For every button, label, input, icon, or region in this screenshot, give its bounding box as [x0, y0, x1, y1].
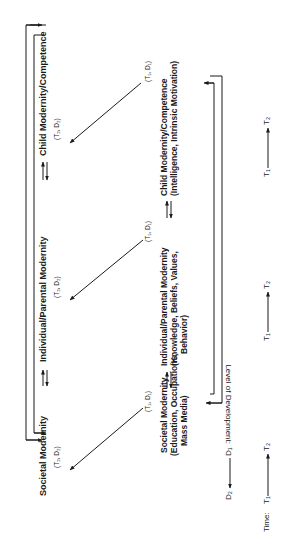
time-2-from: T₁ [262, 333, 271, 341]
time-3-from: T₁ [262, 169, 271, 177]
arrow-societal-t1-to-t2 [70, 408, 143, 470]
bidir-t2-societal-individual [43, 370, 47, 386]
bidir-t1-individual-child [167, 201, 171, 218]
arrow-individual-t1-to-t2 [70, 240, 143, 300]
bidir-t2-individual-child [43, 162, 47, 180]
t2-child-modernity-title: Child Modernity/Competence [38, 31, 48, 156]
t1-societal-modernity-desc-2: Mass Media) [180, 395, 190, 446]
level-to-label: D₂ [224, 491, 233, 500]
modernity-diagram: Societal Modernity (T₂, D₂) Individual/P… [0, 0, 300, 548]
level-from-label: D₁ [224, 448, 233, 456]
t1-individual-modernity-coord: (T₁, D₁) [144, 221, 151, 242]
t1-societal-modernity-coord: (T₁, D₁) [144, 391, 151, 412]
t2-societal-modernity-coord: (T₂, D₂) [53, 446, 60, 468]
t1-child-modernity-desc-1: (Intelligence, Intrinsic Motivation) [170, 61, 180, 196]
time-1-to: T₂ [262, 443, 271, 451]
level-axis-label: Level of Development: [224, 364, 233, 444]
arrow-child-t1-to-t2 [70, 83, 141, 143]
t1-individual-modernity-desc-2: Behavior) [180, 315, 190, 354]
t1-child-modernity-coord: (T₁, D₁) [144, 61, 151, 82]
t2-individual-modernity-coord: (T₂, D₂) [53, 276, 60, 298]
bracket-t1-outer [210, 76, 222, 403]
time-1-from: T₁ [262, 496, 271, 504]
time-3-to: T₂ [262, 117, 271, 125]
t2-societal-modernity-title: Societal Modernity [38, 416, 48, 496]
t2-individual-modernity-title: Individual/Parental Modernity [38, 236, 48, 362]
time-2-to: T₂ [262, 281, 271, 289]
t2-child-modernity-coord: (T₂, D₂) [53, 118, 60, 140]
bracket-t1-inner [206, 83, 214, 394]
time-axis-label: Time: [262, 512, 271, 532]
